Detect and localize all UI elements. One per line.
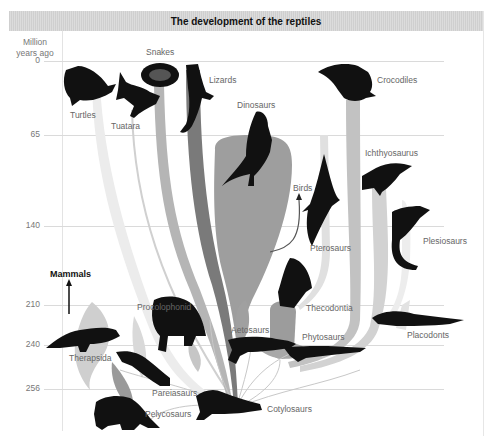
label-lizards: Lizards — [209, 75, 236, 85]
label-therapsida: Therapsida — [69, 353, 112, 363]
crocodile-silhouette — [318, 64, 376, 101]
pterosaur-silhouette — [302, 154, 340, 246]
mammals-arrowhead — [66, 279, 72, 286]
label-birds: Birds — [293, 183, 312, 193]
label-placodonts: Placodonts — [407, 330, 449, 340]
label-aetosaurs: Aetosaurs — [231, 325, 269, 335]
label-thecodontia: Thecodontia — [306, 303, 353, 313]
label-pelycosaurs: Pelycosaurs — [145, 409, 191, 419]
ichthyosaurus-silhouette — [362, 163, 412, 196]
turtle-silhouette — [64, 66, 116, 106]
label-snakes: Snakes — [146, 47, 174, 57]
therapsid-silhouette — [46, 328, 120, 352]
label-turtles: Turtles — [70, 110, 96, 120]
label-pterosaurs: Pterosaurs — [310, 243, 351, 253]
label-plesiosaurs: Plesiosaurs — [423, 236, 467, 246]
label-procolophonid: Procolophonid — [137, 302, 191, 312]
label-dinosaurs: Dinosaurs — [237, 100, 275, 110]
placodont-silhouette — [372, 311, 464, 326]
label-mammals: Mammals — [50, 269, 91, 279]
label-phytosaurs: Phytosaurs — [302, 332, 345, 342]
label-crocodiles: Crocodiles — [377, 75, 417, 85]
label-tuatara: Tuatara — [111, 121, 140, 131]
evolution-streams — [0, 0, 488, 440]
label-cotylosaurs: Cotylosaurs — [267, 404, 312, 414]
label-ichthyosaurus: Ichthyosaurus — [365, 148, 418, 158]
label-pareiasaurs: Pareiasaurs — [152, 388, 197, 398]
birds-arrowhead — [296, 193, 302, 200]
